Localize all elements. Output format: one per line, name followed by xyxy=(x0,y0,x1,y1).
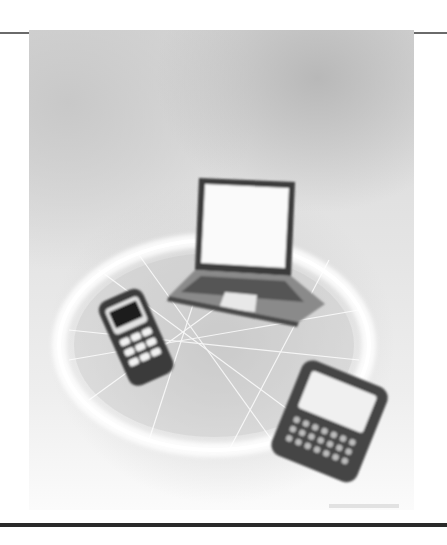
image-credit-smudge xyxy=(329,504,399,508)
photo-illustration xyxy=(29,30,414,510)
top-left-rule xyxy=(0,32,30,34)
bottom-rule xyxy=(0,523,447,527)
device-network-photo xyxy=(29,30,414,510)
top-right-rule xyxy=(414,32,447,34)
